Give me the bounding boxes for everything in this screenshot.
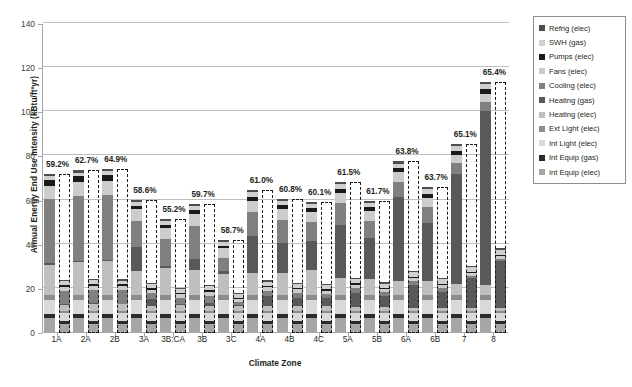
baseline-bar[interactable]	[422, 187, 433, 333]
baseline-bar[interactable]	[247, 190, 258, 333]
y-axis-tick-label: 60	[0, 196, 35, 206]
bar-segment	[335, 318, 346, 333]
legend-swatch-icon	[539, 140, 545, 146]
bar-segment	[73, 262, 84, 295]
bar-segment	[451, 300, 462, 315]
energy-end-use-chart: Annual Energy End Use Intensity (kBtu/ft…	[0, 0, 632, 387]
x-axis-tick-label: 6A	[392, 335, 421, 344]
baseline-bar[interactable]	[189, 204, 200, 333]
legend-item[interactable]: Heating (elec)	[539, 107, 621, 121]
savings-outline	[408, 161, 419, 333]
legend-item[interactable]: Fans (elec)	[539, 64, 621, 78]
legend-item-label: Cooling (elec)	[549, 81, 596, 90]
legend-item[interactable]: Cooling (elec)	[539, 79, 621, 93]
legend-swatch-icon	[539, 155, 545, 161]
legend-item[interactable]: Ext Light (elec)	[539, 122, 621, 136]
bar-segment	[480, 111, 491, 285]
bar-segment	[451, 155, 462, 163]
legend-item-label: Int Light (elec)	[549, 139, 597, 148]
y-axis-tick-label: 80	[0, 151, 35, 161]
bar-segment	[102, 261, 113, 295]
bar-segment	[393, 197, 404, 281]
bar-segment	[306, 300, 317, 315]
savings-percent-label: 63.8%	[395, 147, 418, 156]
bar-segment	[364, 300, 375, 315]
bar-segment	[160, 228, 171, 239]
bar-segment	[131, 209, 142, 220]
baseline-bar[interactable]	[335, 182, 346, 333]
baseline-bar[interactable]	[451, 144, 462, 333]
baseline-bar[interactable]	[480, 82, 491, 333]
legend-item[interactable]: Pumps (elec)	[539, 50, 621, 64]
savings-outline	[233, 240, 244, 333]
bar-segment	[335, 278, 346, 295]
bar-segment	[44, 318, 55, 333]
bar-segment	[102, 181, 113, 195]
bar-segment	[422, 207, 433, 223]
bar-group: 62.7%2A	[71, 24, 100, 333]
bar-segment	[422, 318, 433, 333]
bar-group: 65.4%8	[479, 24, 508, 333]
baseline-bar[interactable]	[393, 161, 404, 333]
bar-segment	[451, 174, 462, 283]
bar-segment	[306, 270, 317, 295]
bar-segment	[218, 274, 229, 295]
y-axis-tick-label: 40	[0, 240, 35, 250]
bar-segment	[131, 300, 142, 315]
legend-item[interactable]: Int Light (elec)	[539, 136, 621, 150]
bar-segment	[247, 300, 258, 315]
bar-segment	[306, 241, 317, 270]
bar-segment	[480, 300, 491, 315]
legend-item[interactable]: Refrig (elec)	[539, 21, 621, 35]
bar-group: 65.1%7	[450, 24, 479, 333]
baseline-bar[interactable]	[306, 202, 317, 333]
legend-swatch-icon	[539, 169, 545, 175]
savings-outline	[321, 202, 332, 333]
legend-item-label: Int Equip (gas)	[549, 153, 598, 162]
legend-item[interactable]: Int Equip (elec)	[539, 165, 621, 179]
legend-item[interactable]: Int Equip (gas)	[539, 151, 621, 165]
bar-segment	[218, 258, 229, 271]
baseline-bar[interactable]	[218, 240, 229, 333]
baseline-bar[interactable]	[73, 170, 84, 333]
legend-item-label: Fans (elec)	[549, 67, 587, 76]
savings-outline	[146, 200, 157, 333]
savings-outline	[262, 190, 273, 333]
bar-segment	[160, 300, 171, 315]
baseline-bar[interactable]	[160, 219, 171, 333]
legend-item[interactable]: Heating (gas)	[539, 93, 621, 107]
bar-segment	[247, 236, 258, 274]
bar-segment	[393, 281, 404, 295]
bar-segment	[451, 284, 462, 295]
savings-outline	[350, 182, 361, 333]
legend-swatch-icon	[539, 54, 545, 60]
bar-group: 63.8%6A	[392, 24, 421, 333]
savings-percent-label: 64.9%	[104, 155, 127, 164]
x-axis-tick-label: 1A	[42, 335, 71, 344]
bar-segment	[44, 186, 55, 200]
baseline-bar[interactable]	[44, 174, 55, 333]
savings-outline	[292, 199, 303, 333]
legend-item[interactable]: SWH (gas)	[539, 35, 621, 49]
savings-percent-label: 58.7%	[221, 226, 244, 235]
legend-item-label: Ext Light (elec)	[549, 124, 600, 133]
x-axis-tick-label: 8	[479, 335, 508, 344]
x-axis-tick-label: 3B:CA	[159, 335, 188, 344]
savings-percent-label: 55.2%	[162, 205, 185, 214]
baseline-bar[interactable]	[277, 199, 288, 333]
bar-segment	[335, 300, 346, 315]
savings-percent-label: 65.1%	[454, 130, 477, 139]
legend-item-label: SWH (gas)	[549, 38, 586, 47]
bar-segment	[335, 225, 346, 278]
legend-item-label: Pumps (elec)	[549, 52, 594, 61]
bar-segment	[480, 318, 491, 333]
baseline-bar[interactable]	[364, 201, 375, 333]
baseline-bar[interactable]	[131, 200, 142, 333]
legend-swatch-icon	[539, 25, 545, 31]
bar-group: 58.7%3C	[217, 24, 246, 333]
bar-group: 61.0%4A	[246, 24, 275, 333]
bar-group: 60.8%4B	[275, 24, 304, 333]
baseline-bar[interactable]	[102, 169, 113, 333]
x-axis-tick-label: 2A	[71, 335, 100, 344]
savings-percent-label: 63.7%	[425, 173, 448, 182]
